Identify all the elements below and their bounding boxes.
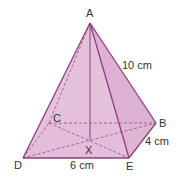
vertex-label-C: C — [53, 112, 61, 124]
vertex-label-D: D — [14, 159, 22, 171]
pyramid-diagram: A B C D E X 10 cm 4 cm 6 cm — [0, 0, 178, 179]
measurement-AB: 10 cm — [122, 59, 152, 71]
measurement-DE: 6 cm — [70, 159, 94, 171]
vertex-label-X: X — [85, 144, 93, 156]
vertex-label-B: B — [159, 117, 166, 129]
measurement-EB: 4 cm — [145, 135, 169, 147]
vertex-label-E: E — [126, 160, 133, 172]
vertex-label-A: A — [86, 7, 94, 19]
